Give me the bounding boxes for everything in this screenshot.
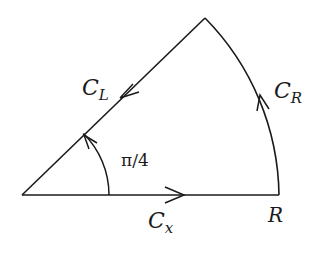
segment-cl [22, 18, 205, 195]
label-angle: π/4 [121, 150, 149, 170]
label-cl-main: C [82, 75, 99, 100]
contour-diagram: CL CR Cx R π/4 [0, 0, 327, 255]
label-cr-sub: R [290, 89, 302, 107]
label-cl: CL [82, 75, 109, 104]
label-cx-main: C [148, 208, 165, 233]
label-cx-sub: x [165, 219, 174, 237]
label-cl-sub: L [98, 86, 109, 104]
label-cr: CR [274, 78, 302, 107]
label-cx: Cx [148, 208, 174, 237]
label-cr-main: C [274, 78, 291, 103]
label-radius: R [267, 203, 283, 227]
